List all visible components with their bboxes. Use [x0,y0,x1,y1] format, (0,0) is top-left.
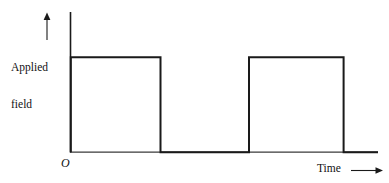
applied-field-waveform [71,57,378,152]
origin-label: O [61,157,70,170]
y-axis-label: Applied field [11,36,48,135]
arrow-right-icon [351,167,383,174]
waveform-plot [0,0,389,183]
y-axis-label-line1: Applied [11,61,48,73]
y-axis-label-line2: field [11,98,48,110]
x-axis-label: Time [317,162,341,174]
figure-container: Applied field O Time [0,0,389,183]
